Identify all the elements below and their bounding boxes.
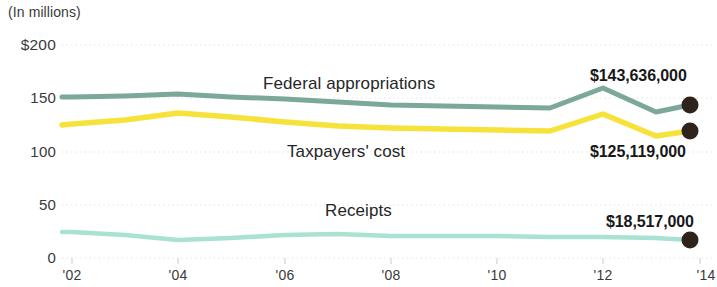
y-axis-tick-2: 100 [0,143,56,160]
y-axis-tick-4: 0 [0,249,56,266]
x-axis-tick-2010: '10 [488,267,507,283]
x-axis-tick-2008: '08 [382,267,401,283]
endpoint-dot-receipts [682,232,699,249]
series-line-taxpayers [62,113,690,136]
series-label-receipts: Receipts [325,201,392,221]
endpoint-dot-taxpayers [682,123,699,140]
y-axis-tick-1: 150 [0,89,56,106]
x-axis-tick-2002: '02 [63,267,82,283]
value-label-receipts: $18,517,000 [606,213,694,231]
x-axis-tick-2006: '06 [276,267,295,283]
series-line-receipts [62,232,690,240]
x-axis-tick-2012: '12 [594,267,613,283]
series-label-taxpayers: Taxpayers' cost [287,142,405,162]
x-tickmarks [72,258,700,264]
value-label-federal: $143,636,000 [590,67,687,85]
value-label-taxpayers: $125,119,000 [590,143,686,161]
endpoint-dot-federal [682,97,699,114]
series-label-federal: Federal appropriations [263,74,435,94]
y-axis-tick-0: $200 [0,36,56,54]
chart-container: (In millions) $200 150 100 50 [0,0,717,287]
y-axis-tick-3: 50 [0,196,56,213]
x-axis-tick-2014: '14 [697,267,716,283]
x-axis-tick-2004: '04 [169,267,188,283]
